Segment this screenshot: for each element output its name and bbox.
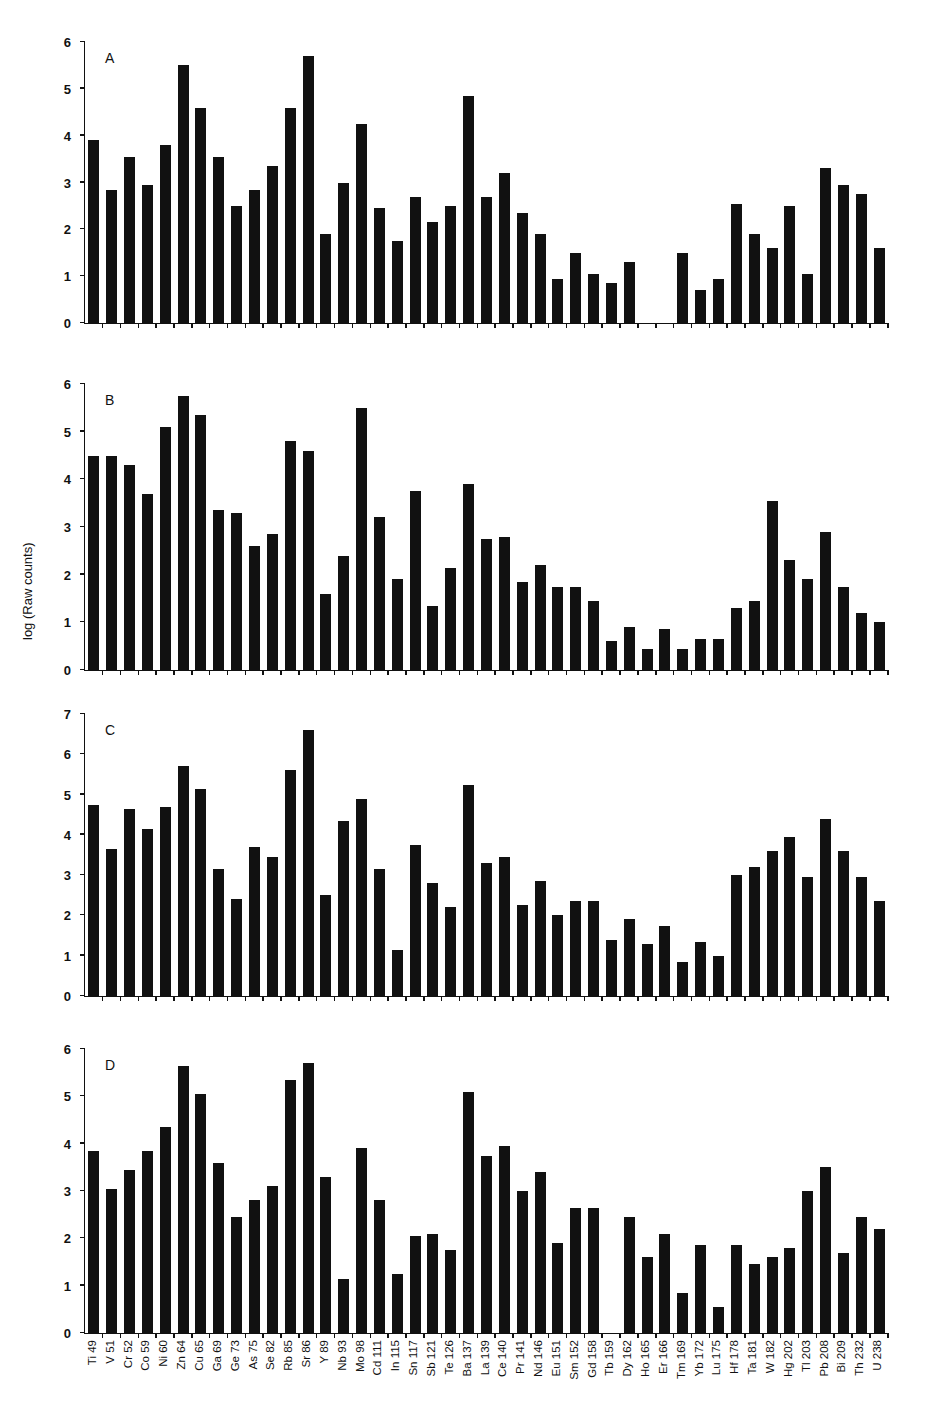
y-tick-label: 2 <box>51 908 71 923</box>
bar-yb-172 <box>695 942 706 996</box>
bar-nb-93 <box>338 556 349 670</box>
x-tick <box>477 996 479 1001</box>
panel-label: B <box>105 392 114 408</box>
bar-th-232 <box>856 1217 867 1333</box>
x-tick <box>102 1333 104 1338</box>
x-tick-label: Tm 169 <box>675 1340 687 1379</box>
x-tick <box>227 1333 229 1338</box>
x-tick <box>816 670 818 675</box>
x-tick <box>227 323 229 328</box>
x-tick-label: La 139 <box>479 1340 491 1375</box>
bar-pr-141 <box>517 213 528 323</box>
x-tick-label: Th 232 <box>853 1340 865 1376</box>
x-tick <box>601 323 603 328</box>
bar-in-115 <box>392 579 403 670</box>
x-tick <box>155 323 157 328</box>
x-tick <box>655 323 657 328</box>
bar-sn-117 <box>410 1236 421 1333</box>
x-tick <box>691 670 693 675</box>
x-tick <box>726 996 728 1001</box>
x-tick <box>441 996 443 1001</box>
y-tick-label: 0 <box>51 1326 71 1341</box>
y-tick <box>80 1190 85 1192</box>
bar-rb-85 <box>285 1080 296 1333</box>
x-tick-label: Bi 209 <box>835 1340 847 1373</box>
bar-ba-137 <box>463 785 474 997</box>
bar-bi-209 <box>838 185 849 323</box>
x-axis-labels: Ti 49V 51Cr 52Co 59Ni 60Zn 64Cu 65Ga 69G… <box>84 1340 887 1410</box>
y-tick <box>80 669 85 671</box>
x-tick <box>459 996 461 1001</box>
x-tick <box>316 996 318 1001</box>
x-tick <box>887 996 889 1001</box>
bar-pb-208 <box>820 168 831 323</box>
x-tick <box>227 670 229 675</box>
bar-tb-159 <box>606 283 617 323</box>
bar-ti-49 <box>88 456 99 671</box>
bar-ti-49 <box>88 140 99 323</box>
x-tick <box>245 323 247 328</box>
bar-mo-98 <box>356 1148 367 1333</box>
panel-label: C <box>105 722 115 738</box>
bar-rb-85 <box>285 441 296 670</box>
bar-lu-175 <box>713 1307 724 1333</box>
x-tick <box>816 1333 818 1338</box>
bar-cd-111 <box>374 1200 385 1333</box>
bar-tl-203 <box>802 274 813 323</box>
bar-sm-152 <box>570 901 581 996</box>
x-tick <box>334 670 336 675</box>
x-tick <box>191 996 193 1001</box>
bar-yb-172 <box>695 1245 706 1333</box>
bar-in-115 <box>392 950 403 996</box>
y-tick <box>80 181 85 183</box>
x-tick-label: Sm 152 <box>568 1340 580 1380</box>
x-tick <box>512 996 514 1001</box>
y-tick-label: 4 <box>51 828 71 843</box>
bar-ba-137 <box>463 1092 474 1333</box>
bar-te-126 <box>445 568 456 670</box>
x-tick-label: Ni 60 <box>157 1340 169 1367</box>
bar-nb-93 <box>338 183 349 324</box>
bar-nd-146 <box>535 881 546 996</box>
x-tick <box>780 996 782 1001</box>
bar-ba-137 <box>463 96 474 323</box>
bar-th-232 <box>856 194 867 323</box>
y-tick-label: 3 <box>51 868 71 883</box>
bar-nd-146 <box>535 234 546 323</box>
x-tick <box>637 323 639 328</box>
x-tick-label: Ga 69 <box>211 1340 223 1371</box>
x-tick <box>762 1333 764 1338</box>
bar-sb-121 <box>427 1234 438 1333</box>
y-tick <box>80 1048 85 1050</box>
x-tick <box>173 323 175 328</box>
bar-ni-60 <box>160 1127 171 1333</box>
x-tick <box>245 670 247 675</box>
x-tick <box>798 323 800 328</box>
x-tick <box>423 670 425 675</box>
x-tick <box>155 996 157 1001</box>
bar-zn-64 <box>178 766 189 996</box>
x-tick <box>370 996 372 1001</box>
y-tick-label: 3 <box>51 1184 71 1199</box>
x-tick <box>798 670 800 675</box>
x-tick <box>744 323 746 328</box>
y-tick <box>80 322 85 324</box>
y-tick <box>80 1095 85 1097</box>
bar-nd-146 <box>535 565 546 670</box>
x-tick <box>459 1333 461 1338</box>
bar-th-232 <box>856 877 867 996</box>
bar-rb-85 <box>285 108 296 323</box>
bar-te-126 <box>445 1250 456 1333</box>
x-tick-label: Ta 181 <box>746 1340 758 1375</box>
x-tick <box>691 323 693 328</box>
bar-ta-181 <box>749 1264 760 1333</box>
bar-er-166 <box>659 926 670 997</box>
x-tick <box>334 323 336 328</box>
x-tick <box>405 1333 407 1338</box>
x-tick <box>744 670 746 675</box>
x-tick <box>298 323 300 328</box>
x-tick <box>566 323 568 328</box>
x-tick-label: Hf 178 <box>728 1340 740 1374</box>
y-tick <box>80 134 85 136</box>
x-tick <box>494 996 496 1001</box>
